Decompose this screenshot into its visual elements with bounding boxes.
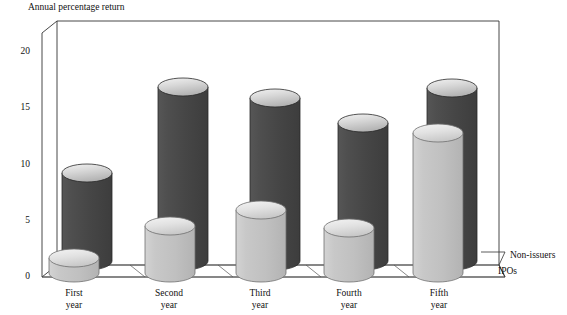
legend-label-ipos: IPOs: [498, 266, 517, 276]
x-label-second-year-line1: Second: [134, 287, 204, 299]
y-tick-20: 20: [8, 46, 30, 56]
y-tick-10: 10: [8, 159, 30, 169]
x-label-third-year-line2: year: [225, 299, 295, 311]
bar-ipos-second-year: [145, 217, 195, 282]
chart-container: Annual percentage return: [0, 0, 567, 315]
x-label-fifth-year-line2: year: [404, 299, 474, 311]
bar-ipos-fourth-year: [324, 219, 374, 282]
x-label-second-year-line2: year: [134, 299, 204, 311]
legend-floor-marker: [481, 252, 505, 265]
bar-ipos-third-year: [236, 201, 286, 282]
x-label-first-year-line1: First: [39, 287, 109, 299]
x-label-fourth-year: Fourth year: [314, 287, 384, 311]
y-tick-0: 0: [8, 271, 30, 281]
x-label-fourth-year-line2: year: [314, 299, 384, 311]
x-label-first-year: First year: [39, 287, 109, 311]
legend-label-non-issuers: Non-issuers: [510, 250, 555, 260]
chart-canvas: [0, 0, 567, 315]
y-tick-15: 15: [8, 102, 30, 112]
x-label-fifth-year: Fifth year: [404, 287, 474, 311]
x-label-second-year: Second year: [134, 287, 204, 311]
bar-ipos-fifth-year: [413, 124, 463, 282]
x-label-first-year-line2: year: [39, 299, 109, 311]
x-label-fifth-year-line1: Fifth: [404, 287, 474, 299]
x-label-third-year: Third year: [225, 287, 295, 311]
bar-ipos-first-year: [49, 249, 99, 282]
x-label-fourth-year-line1: Fourth: [314, 287, 384, 299]
y-tick-5: 5: [8, 215, 30, 225]
x-label-third-year-line1: Third: [225, 287, 295, 299]
